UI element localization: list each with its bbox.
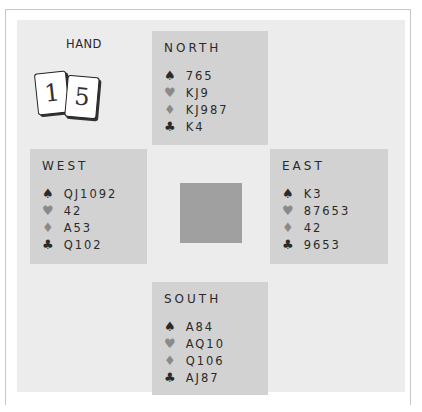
heart-icon: ♥ (164, 84, 180, 101)
diamond-icon: ♦ (42, 219, 58, 236)
east-spades-cards: K3 (304, 187, 323, 201)
east-hearts: ♥ 87653 (282, 202, 376, 219)
club-icon: ♣ (164, 369, 180, 386)
heart-icon: ♥ (164, 335, 180, 352)
club-icon: ♣ (42, 236, 58, 253)
east-hearts-cards: 87653 (304, 204, 351, 218)
west-title: WEST (42, 159, 135, 173)
hand-label: HAND (66, 37, 102, 51)
south-hand: SOUTH ♠ A84 ♥ AQ10 ♦ Q106 ♣ AJ87 (152, 282, 268, 395)
west-hearts: ♥ 42 (42, 202, 135, 219)
south-spades: ♠ A84 (164, 318, 256, 335)
north-diamonds-cards: KJ987 (186, 103, 229, 117)
club-icon: ♣ (164, 118, 180, 135)
spade-icon: ♠ (164, 318, 180, 335)
east-hand: EAST ♠ K3 ♥ 87653 ♦ 42 ♣ 9653 (270, 149, 388, 264)
north-diamonds: ♦ KJ987 (164, 101, 256, 118)
east-spades: ♠ K3 (282, 185, 376, 202)
south-diamonds: ♦ Q106 (164, 352, 256, 369)
south-clubs: ♣ AJ87 (164, 369, 256, 386)
south-spades-cards: A84 (186, 320, 215, 334)
diamond-icon: ♦ (282, 219, 298, 236)
spade-icon: ♠ (164, 67, 180, 84)
west-spades: ♠ QJ1092 (42, 185, 135, 202)
south-hearts: ♥ AQ10 (164, 335, 256, 352)
west-spades-cards: QJ1092 (64, 187, 118, 201)
north-title: NORTH (164, 41, 256, 55)
east-clubs-cards: 9653 (304, 238, 341, 252)
east-diamonds: ♦ 42 (282, 219, 376, 236)
heart-icon: ♥ (42, 202, 58, 219)
south-diamonds-cards: Q106 (186, 354, 225, 368)
club-icon: ♣ (282, 236, 298, 253)
east-diamonds-cards: 42 (304, 221, 323, 235)
north-hearts: ♥ KJ9 (164, 84, 256, 101)
west-diamonds: ♦ A53 (42, 219, 135, 236)
heart-icon: ♥ (282, 202, 298, 219)
west-hearts-cards: 42 (64, 204, 83, 218)
south-hearts-cards: AQ10 (186, 337, 225, 351)
east-title: EAST (282, 159, 376, 173)
north-spades-cards: 765 (186, 69, 214, 83)
diamond-icon: ♦ (164, 352, 180, 369)
north-hand: NORTH ♠ 765 ♥ KJ9 ♦ KJ987 ♣ K4 (152, 31, 268, 145)
diamond-icon: ♦ (164, 101, 180, 118)
west-clubs: ♣ Q102 (42, 236, 135, 253)
west-diamonds-cards: A53 (64, 221, 93, 235)
spade-icon: ♠ (282, 185, 298, 202)
north-spades: ♠ 765 (164, 67, 256, 84)
west-clubs-cards: Q102 (64, 238, 103, 252)
spade-icon: ♠ (42, 185, 58, 202)
north-clubs-cards: K4 (186, 120, 205, 134)
north-hearts-cards: KJ9 (186, 86, 210, 100)
table-center (180, 183, 242, 243)
north-clubs: ♣ K4 (164, 118, 256, 135)
hand-number-card-2: 5 (64, 75, 100, 120)
east-clubs: ♣ 9653 (282, 236, 376, 253)
west-hand: WEST ♠ QJ1092 ♥ 42 ♦ A53 ♣ Q102 (30, 149, 147, 264)
south-clubs-cards: AJ87 (186, 371, 220, 385)
south-title: SOUTH (164, 292, 256, 306)
